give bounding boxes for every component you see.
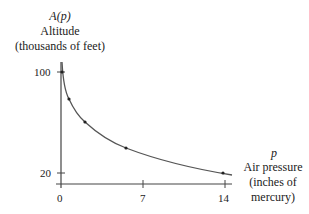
data-point <box>83 120 86 123</box>
x-tick-0: 0 <box>57 192 63 204</box>
x-axis-variable-label: p <box>240 146 308 160</box>
x-axis-units-line1: (inches of <box>238 175 308 189</box>
x-axis-title: Air pressure <box>238 160 308 174</box>
data-point <box>221 171 224 174</box>
altitude-curve <box>62 62 232 175</box>
y-tick-20: 20 <box>40 167 51 179</box>
x-tick-14: 14 <box>218 192 229 204</box>
x-tick-7: 7 <box>140 192 146 204</box>
y-axis-function-label: A(p) <box>30 9 90 23</box>
y-axis-units: (thousands of feet) <box>2 39 118 53</box>
data-point <box>67 97 70 100</box>
data-point <box>60 70 63 73</box>
data-point <box>124 146 127 149</box>
y-axis-title: Altitude <box>30 24 90 38</box>
x-axis-units-line2: mercury) <box>238 190 308 204</box>
y-tick-100: 100 <box>34 66 51 78</box>
